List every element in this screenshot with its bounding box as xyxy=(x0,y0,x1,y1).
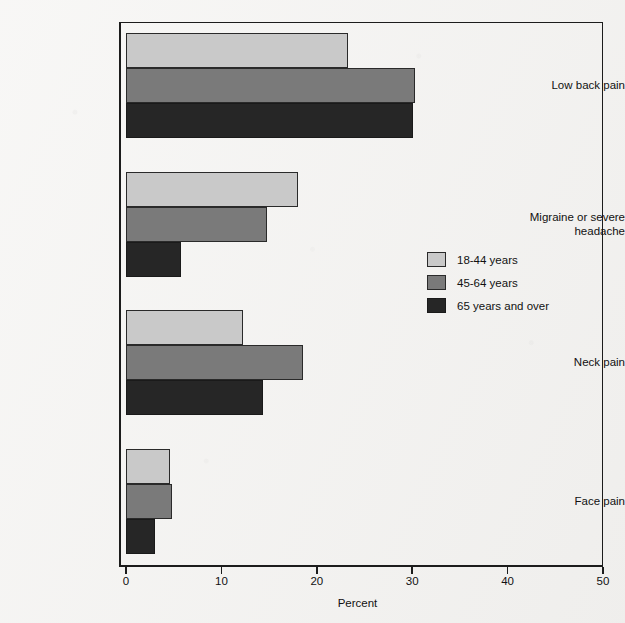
bar-1-2 xyxy=(126,242,181,277)
category-label-2: Neck pain xyxy=(513,356,625,370)
legend-label-2: 65 years and over xyxy=(457,300,549,312)
x-tick-30 xyxy=(411,567,413,574)
legend: 18-44 years 45-64 years 65 years and ove… xyxy=(427,248,549,317)
x-tick-label-50: 50 xyxy=(597,575,610,587)
x-axis-title: Percent xyxy=(0,597,625,609)
category-label-3: Face pain xyxy=(513,495,625,509)
legend-swatch-icon-2 xyxy=(427,298,446,313)
category-label-1: Migraine or severe headache xyxy=(513,211,625,238)
legend-item-0: 18-44 years xyxy=(427,248,549,271)
legend-label-0: 18-44 years xyxy=(457,254,518,266)
bar-0-2 xyxy=(126,103,413,138)
bar-3-2 xyxy=(126,519,155,554)
x-tick-20 xyxy=(316,567,318,574)
bar-2-0 xyxy=(126,310,243,345)
bar-1-1 xyxy=(126,207,267,242)
bar-0-0 xyxy=(126,33,348,68)
bar-0-1 xyxy=(126,68,415,103)
x-tick-0 xyxy=(125,567,127,574)
x-tick-10 xyxy=(221,567,223,574)
legend-item-1: 45-64 years xyxy=(427,271,549,294)
bar-3-0 xyxy=(126,449,170,484)
bar-1-0 xyxy=(126,172,298,207)
x-tick-label-10: 10 xyxy=(215,575,228,587)
bar-chart: Low back painMigraine or severe headache… xyxy=(0,0,625,623)
legend-item-2: 65 years and over xyxy=(427,294,549,317)
legend-label-1: 45-64 years xyxy=(457,277,518,289)
x-tick-label-0: 0 xyxy=(123,575,129,587)
legend-swatch-icon-1 xyxy=(427,275,446,290)
x-tick-40 xyxy=(507,567,509,574)
x-tick-label-30: 30 xyxy=(406,575,419,587)
bar-2-2 xyxy=(126,380,263,415)
category-label-0: Low back pain xyxy=(513,79,625,93)
x-axis-title-text: Percent xyxy=(338,597,378,609)
x-tick-label-40: 40 xyxy=(501,575,514,587)
x-tick-label-20: 20 xyxy=(310,575,323,587)
bar-3-1 xyxy=(126,484,172,519)
legend-swatch-icon-0 xyxy=(427,252,446,267)
bar-2-1 xyxy=(126,345,303,380)
x-tick-50 xyxy=(602,567,604,574)
